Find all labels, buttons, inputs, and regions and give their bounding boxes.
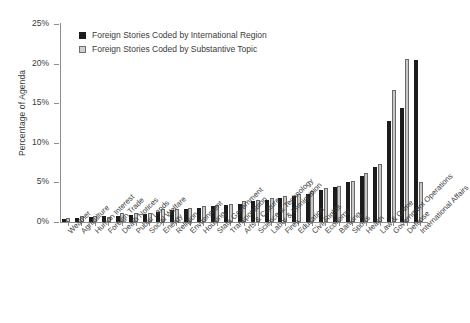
bar-group bbox=[346, 24, 360, 222]
bar-group bbox=[319, 24, 333, 222]
bar-group bbox=[386, 24, 400, 222]
bar-group bbox=[197, 24, 211, 222]
bar-group bbox=[400, 24, 414, 222]
y-tick-label: 20% bbox=[32, 58, 49, 68]
y-tick-label: 10% bbox=[32, 137, 49, 147]
bar[interactable] bbox=[62, 219, 66, 222]
y-tick: 25% bbox=[0, 24, 60, 25]
bar-group bbox=[102, 24, 116, 222]
y-tick: 20% bbox=[0, 64, 60, 65]
y-tick-mark bbox=[54, 143, 59, 144]
y-tick: 5% bbox=[0, 182, 60, 183]
y-tick-mark bbox=[54, 64, 59, 65]
bar-group bbox=[413, 24, 427, 222]
bar-group bbox=[373, 24, 387, 222]
y-tick: 10% bbox=[0, 143, 60, 144]
bar-group bbox=[237, 24, 251, 222]
y-tick-mark bbox=[54, 24, 59, 25]
bar[interactable] bbox=[387, 121, 391, 222]
y-tick: 15% bbox=[0, 103, 60, 104]
bar-group bbox=[210, 24, 224, 222]
bar-group bbox=[142, 24, 156, 222]
y-tick-mark bbox=[54, 182, 59, 183]
bar-group bbox=[156, 24, 170, 222]
y-tick-mark bbox=[54, 222, 59, 223]
bar-group bbox=[183, 24, 197, 222]
bars-layer bbox=[61, 24, 427, 222]
bar-group bbox=[359, 24, 373, 222]
bar-group bbox=[224, 24, 238, 222]
bar-group bbox=[115, 24, 129, 222]
y-tick-label: 25% bbox=[32, 18, 49, 28]
bar-group bbox=[88, 24, 102, 222]
y-tick-mark bbox=[54, 103, 59, 104]
bar[interactable] bbox=[392, 90, 396, 222]
y-tick-label: 15% bbox=[32, 97, 49, 107]
bar[interactable] bbox=[414, 60, 418, 222]
y-tick: 0% bbox=[0, 222, 60, 223]
y-tick-label: 0% bbox=[37, 216, 49, 226]
y-axis-title: Percentage of Agenda bbox=[17, 33, 27, 193]
bar-group bbox=[278, 24, 292, 222]
bar-group bbox=[75, 24, 89, 222]
bar-group bbox=[169, 24, 183, 222]
bar-group bbox=[264, 24, 278, 222]
bar-group bbox=[332, 24, 346, 222]
bar-group bbox=[61, 24, 75, 222]
y-tick-label: 5% bbox=[37, 176, 49, 186]
bar[interactable] bbox=[373, 167, 377, 222]
